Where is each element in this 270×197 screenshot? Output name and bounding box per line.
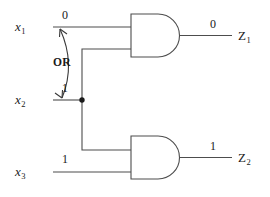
output-label-Z1: Z1 — [238, 29, 250, 42]
wire-junction-to-gate-top — [82, 49, 131, 100]
input-value-x2: 1 — [62, 82, 68, 94]
input-label-x2: x2 — [15, 93, 25, 106]
junction-dot — [79, 97, 84, 102]
wire-junction-to-gate-bottom — [82, 100, 131, 150]
input-value-x1: 0 — [62, 9, 68, 21]
circuit-svg — [0, 0, 270, 197]
output-value-Z1: 0 — [210, 18, 216, 30]
output-label-Z2: Z2 — [238, 151, 250, 164]
and-gate-bottom-body — [131, 136, 180, 179]
and-gate-top-body — [131, 14, 180, 57]
input-label-x3: x3 — [15, 165, 25, 178]
or-annotation-label: OR — [53, 57, 71, 69]
output-value-Z2: 1 — [210, 140, 216, 152]
input-label-x1: x1 — [15, 20, 25, 33]
input-value-x3: 1 — [62, 153, 68, 165]
logic-circuit-diagram: x1 0 x2 1 x3 1 OR 0 Z1 1 Z2 — [0, 0, 270, 197]
